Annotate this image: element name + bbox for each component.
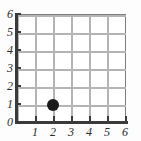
gridline-horizontal-4	[17, 51, 126, 53]
gridline-horizontal-5	[17, 33, 126, 35]
x-tick-2	[53, 116, 55, 122]
x-tick-5	[107, 116, 109, 122]
x-axis-label-4: 4	[83, 126, 95, 138]
x-tick-1	[35, 116, 37, 122]
y-axis-label-3: 3	[1, 62, 13, 74]
y-tick-5	[15, 31, 21, 33]
y-axis-label-2: 2	[1, 80, 13, 92]
y-tick-1	[15, 103, 21, 105]
gridline-horizontal-2	[17, 87, 126, 89]
y-axis-label-4: 4	[1, 44, 13, 56]
x-axis-label-5: 5	[101, 126, 113, 138]
y-axis-line	[15, 13, 18, 124]
x-axis-label-2: 2	[47, 126, 59, 138]
y-axis-label-1: 1	[1, 98, 13, 110]
y-tick-6	[15, 13, 21, 15]
y-axis-label-6: 6	[1, 8, 13, 20]
coordinate-grid-chart: 6 5 4 3 2 1 0 1 2 3 4 5 6	[0, 0, 141, 141]
y-axis-label-5: 5	[1, 26, 13, 38]
gridline-horizontal-1	[17, 105, 126, 107]
gridline-horizontal-6	[17, 15, 126, 17]
data-point	[47, 99, 59, 111]
y-tick-2	[15, 85, 21, 87]
x-tick-6	[125, 116, 127, 122]
gridline-horizontal-3	[17, 69, 126, 71]
y-tick-4	[15, 49, 21, 51]
x-axis-label-6: 6	[119, 126, 131, 138]
x-axis-label-1: 1	[29, 126, 41, 138]
y-tick-3	[15, 67, 21, 69]
y-axis-label-0: 0	[1, 116, 13, 128]
plot-area	[17, 14, 126, 122]
x-axis-label-3: 3	[65, 126, 77, 138]
x-tick-4	[89, 116, 91, 122]
x-tick-3	[71, 116, 73, 122]
